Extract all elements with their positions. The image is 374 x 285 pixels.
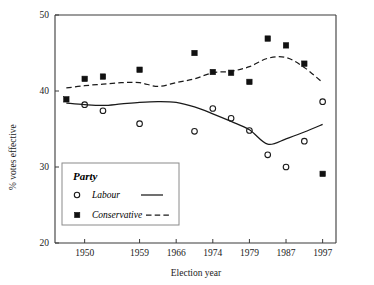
point-labour-1987 — [283, 164, 289, 170]
x-tick-label: 1979 — [240, 248, 259, 258]
legend-label-labour: Labour — [91, 190, 120, 200]
point-conservative-1974O — [228, 70, 233, 75]
point-conservative-1987 — [283, 43, 288, 48]
election-scatter-chart: 20304050 1950195919661974197919871997 % … — [0, 0, 374, 285]
y-tick-label: 20 — [40, 238, 50, 248]
point-labour-1983 — [265, 152, 271, 158]
point-conservative-1970 — [192, 50, 197, 55]
point-conservative-1974F — [210, 69, 215, 74]
point-conservative-1951 — [100, 74, 105, 79]
x-tick-label: 1987 — [277, 248, 296, 258]
point-conservative-1950 — [82, 76, 87, 81]
legend-label-conservative: Conservative — [92, 210, 142, 220]
point-conservative-1983 — [265, 36, 270, 41]
point-labour-1970 — [192, 128, 198, 134]
x-tick-label: 1974 — [203, 248, 222, 258]
x-axis-ticks: 1950195919661974197919871997 — [75, 239, 332, 258]
trend-lines — [66, 57, 322, 145]
trend-line-conservative — [66, 57, 322, 88]
chart-container: 20304050 1950195919661974197919871997 % … — [0, 0, 374, 285]
x-tick-label: 1950 — [75, 248, 94, 258]
y-tick-label: 50 — [40, 10, 50, 20]
legend: Party Labour Conservative — [62, 163, 179, 225]
point-labour-1997 — [320, 99, 326, 105]
point-labour-1992 — [302, 138, 308, 144]
y-axis-ticks: 20304050 — [40, 10, 60, 248]
point-conservative-1945 — [64, 97, 69, 102]
y-tick-label: 30 — [40, 162, 50, 172]
point-labour-1974F — [210, 106, 216, 112]
data-points — [64, 36, 326, 177]
x-tick-label: 1997 — [313, 248, 332, 258]
point-conservative-1979 — [247, 79, 252, 84]
point-conservative-1997 — [320, 171, 325, 176]
x-tick-label: 1966 — [167, 248, 186, 258]
point-labour-1959 — [137, 121, 143, 127]
legend-title: Party — [73, 170, 98, 182]
point-labour-1974O — [228, 116, 234, 122]
point-labour-1951 — [100, 108, 106, 114]
point-conservative-1959 — [137, 67, 142, 72]
x-axis-title: Election year — [171, 268, 222, 278]
legend-marker-conservative-icon — [75, 212, 80, 217]
y-tick-label: 40 — [40, 86, 50, 96]
x-tick-label: 1959 — [130, 248, 149, 258]
point-conservative-1992 — [302, 61, 307, 66]
y-axis-title: % votes effective — [8, 124, 18, 190]
